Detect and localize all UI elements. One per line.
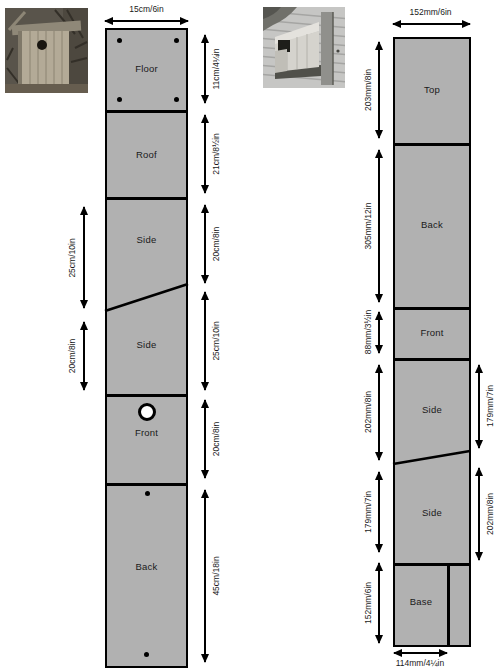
dim-arrow xyxy=(105,20,188,22)
dim-arrow xyxy=(204,35,206,103)
dim-arrow xyxy=(204,205,206,283)
section-label-side2: Side xyxy=(393,507,471,518)
dim-arrow xyxy=(204,292,206,390)
dim-arrow xyxy=(204,400,206,478)
dim-label-back: 45cm/18in xyxy=(210,526,222,626)
cut-line xyxy=(395,307,469,310)
open-front-nest-box-photo xyxy=(263,7,345,88)
dim-label-front: 20cm/8in xyxy=(210,389,222,489)
dim-arrow xyxy=(83,322,85,390)
section-label-base: Base xyxy=(394,596,448,607)
dim-label-side2-short: 179mm/7in xyxy=(362,462,374,562)
dim-label-roof: 21cm/8½in xyxy=(210,104,222,204)
entrance-hole xyxy=(37,40,47,50)
front-step xyxy=(275,49,287,73)
section-label-top: Top xyxy=(393,84,471,95)
dim-label-side1-short: 179mm/7in xyxy=(484,356,496,456)
dim-label-side2-long: 202mm/8in xyxy=(484,464,496,564)
dim-label-side2-short: 20cm/8in xyxy=(66,306,78,406)
dim-label-base-width: 114mm/4¼in xyxy=(375,658,465,668)
screw-hole xyxy=(117,38,122,43)
section-label-front: Front xyxy=(105,427,188,438)
dim-arrow xyxy=(378,365,380,460)
screw-hole xyxy=(117,97,122,102)
dim-arrow xyxy=(394,652,447,654)
cut-line xyxy=(395,358,469,361)
dim-arrow xyxy=(478,365,480,448)
dim-arrow xyxy=(478,468,480,560)
dim-arrow xyxy=(83,207,85,308)
dim-arrow xyxy=(378,312,380,353)
ground xyxy=(5,84,88,93)
section-label-side1: Side xyxy=(105,234,188,245)
screw-hole xyxy=(174,38,179,43)
dim-arrow xyxy=(204,490,206,662)
screw-hole xyxy=(145,491,150,496)
section-label-side2: Side xyxy=(105,339,188,350)
dim-arrow xyxy=(378,472,380,552)
dim-label-plank-width: 15cm/6in xyxy=(105,4,188,14)
dim-label-back: 305mm/12in xyxy=(362,176,374,276)
section-label-front: Front xyxy=(393,327,471,338)
round-hole-nest-box-photo xyxy=(5,8,88,93)
dim-arrow xyxy=(204,115,206,193)
dim-label-side1-long: 202mm/8in xyxy=(362,362,374,462)
cut-line xyxy=(395,563,469,566)
section-label-floor: Floor xyxy=(105,63,188,74)
dim-label-base: 152mm/6in xyxy=(362,553,374,653)
dim-label-side2-long: 25cm/10in xyxy=(210,291,222,391)
section-label-back: Back xyxy=(393,219,471,230)
section-label-back: Back xyxy=(105,561,188,572)
nail xyxy=(336,49,339,52)
screw-hole xyxy=(174,97,179,102)
dim-label-side1-long: 25cm/10in xyxy=(66,208,78,308)
dim-arrow xyxy=(378,563,380,643)
section-label-roof: Roof xyxy=(105,149,188,160)
batten xyxy=(321,12,333,85)
cut-line xyxy=(107,483,186,486)
dim-arrow xyxy=(378,42,380,138)
dim-label-top: 203mm/8in xyxy=(362,40,374,140)
box-edge xyxy=(18,31,22,84)
dim-arrow xyxy=(378,150,380,302)
cut-line xyxy=(107,394,186,397)
dim-label-side1-short: 20cm/8in xyxy=(210,194,222,294)
entrance-hole-mark xyxy=(138,403,156,421)
cut-line xyxy=(107,197,186,200)
cut-line xyxy=(395,143,469,146)
screw-hole xyxy=(144,652,149,657)
section-label-side1: Side xyxy=(393,404,471,415)
nest-box-cutting-diagram: { "colors": { "background": "#ffffff", "… xyxy=(0,0,500,670)
dim-label-plank-width: 152mm/6in xyxy=(392,7,469,17)
dim-arrow xyxy=(393,23,470,25)
right-plank xyxy=(393,37,471,647)
cut-line xyxy=(107,110,186,113)
